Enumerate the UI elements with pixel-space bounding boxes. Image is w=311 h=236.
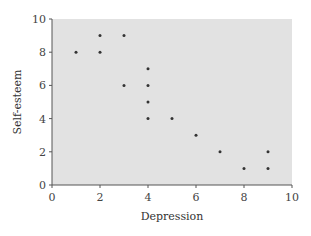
x-axis-ticks: 0246810 (49, 185, 300, 204)
data-point (99, 34, 102, 37)
x-tick-label: 6 (193, 191, 200, 204)
data-point (147, 101, 150, 104)
plot-area (52, 19, 292, 185)
data-point (171, 117, 174, 120)
x-tick-label: 10 (285, 191, 299, 204)
y-tick-label: 6 (39, 79, 46, 92)
y-tick-label: 2 (39, 146, 46, 159)
y-tick-label: 8 (39, 46, 46, 59)
data-point (267, 150, 270, 153)
data-point (195, 134, 198, 137)
y-tick-label: 4 (39, 113, 46, 126)
y-tick-label: 0 (39, 179, 46, 192)
x-tick-label: 0 (49, 191, 56, 204)
data-point (75, 51, 78, 54)
y-axis-ticks: 0246810 (32, 13, 52, 192)
x-tick-label: 4 (145, 191, 152, 204)
data-point (243, 167, 246, 170)
data-point (147, 67, 150, 70)
y-axis-title: Self-esteem (11, 69, 24, 135)
x-tick-label: 2 (97, 191, 104, 204)
data-point (147, 84, 150, 87)
data-point (99, 51, 102, 54)
x-axis-title: Depression (141, 210, 204, 223)
data-point (267, 167, 270, 170)
data-point (219, 150, 222, 153)
scatter-chart: 0246810 0246810 Depression Self-esteem (0, 0, 311, 236)
data-point (123, 34, 126, 37)
data-point (123, 84, 126, 87)
x-tick-label: 8 (241, 191, 248, 204)
data-point (147, 117, 150, 120)
y-tick-label: 10 (32, 13, 46, 26)
